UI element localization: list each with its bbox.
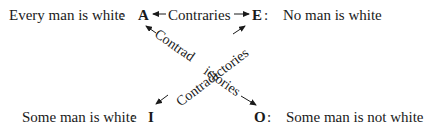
arrow-diag-to-e bbox=[233, 26, 245, 34]
arrow-diag-to-i bbox=[156, 95, 168, 104]
arrow-diag-to-a bbox=[146, 26, 156, 33]
arrow-diag-to-o bbox=[241, 96, 256, 105]
